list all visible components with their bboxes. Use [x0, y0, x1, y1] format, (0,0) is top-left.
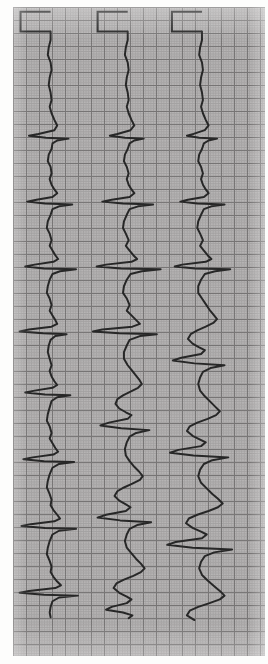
calibration-pulse-channel-3	[172, 12, 202, 32]
ecg-strip	[0, 0, 268, 664]
ecg-traces-layer	[13, 7, 265, 631]
ecg-channel-2	[93, 12, 161, 618]
ecg-channel-1	[20, 12, 78, 618]
ecg-channel-3	[167, 12, 232, 620]
ecg-graph-paper	[13, 7, 265, 656]
ecg-waveform-channel-3	[167, 31, 232, 620]
ecg-waveform-channel-1	[20, 31, 78, 617]
calibration-pulse-channel-1	[21, 12, 51, 32]
ecg-waveform-channel-2	[93, 31, 161, 618]
calibration-pulse-channel-2	[98, 12, 128, 32]
